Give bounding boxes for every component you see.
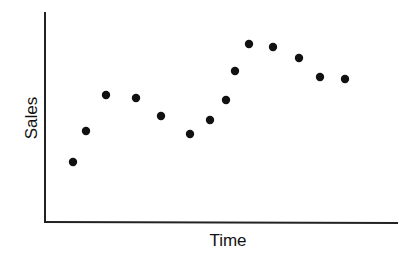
scatter-chart: Time Sales xyxy=(0,0,415,261)
data-point xyxy=(157,112,165,120)
y-axis-label: Sales xyxy=(22,97,41,140)
data-point xyxy=(269,43,277,51)
data-point xyxy=(295,54,303,62)
data-points xyxy=(69,40,349,166)
data-point xyxy=(231,67,239,75)
data-point xyxy=(222,96,230,104)
data-point xyxy=(102,91,110,99)
data-point xyxy=(186,130,194,138)
data-point xyxy=(245,40,253,48)
data-point xyxy=(82,127,90,135)
x-axis-label: Time xyxy=(209,231,246,250)
data-point xyxy=(69,158,77,166)
data-point xyxy=(206,116,214,124)
data-point xyxy=(316,73,324,81)
x-axis xyxy=(44,222,398,223)
data-point xyxy=(341,75,349,83)
data-point xyxy=(132,94,140,102)
